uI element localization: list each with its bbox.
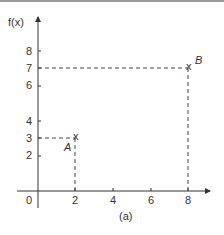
point-a-label: A — [63, 141, 71, 153]
x-tick-6: 6 — [148, 194, 154, 206]
y-axis-title: f(x) — [8, 16, 24, 28]
x-tick-8: 8 — [185, 194, 191, 206]
chart: x x A B 8 7 6 4 3 2 0 2 4 6 8 f(x) (a) — [0, 0, 224, 235]
y-tick-3: 3 — [26, 132, 32, 144]
projection-lines — [38, 68, 188, 191]
y-tick-7: 7 — [26, 62, 32, 74]
figure-caption: (a) — [119, 210, 132, 222]
x-tick-2: 2 — [72, 194, 78, 206]
point-b-marker: x — [186, 60, 192, 72]
y-tick-6: 6 — [26, 79, 32, 91]
y-tick-8: 8 — [26, 45, 32, 57]
point-b-label: B — [195, 54, 202, 66]
point-a-marker: x — [73, 130, 79, 142]
y-tick-4: 4 — [26, 115, 32, 127]
x-tick-4: 4 — [110, 194, 116, 206]
origin-label: 0 — [26, 194, 32, 206]
y-tick-2: 2 — [26, 149, 32, 161]
